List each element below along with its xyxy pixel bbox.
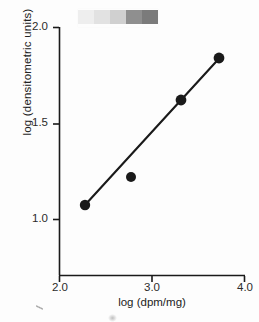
regression-line [85,58,220,205]
x-tick-label-1: 3.0 [135,281,169,293]
x-axis-title: log (dpm/mg) [59,296,245,308]
x-tick-label-2: 4.0 [228,281,259,293]
figure-panel: 2.0 1.5 1.0 2.0 3.0 4.0 log (dpm/mg) log… [0,0,259,322]
data-series [80,53,225,211]
scan-artifact-mark [36,302,43,313]
y-tick-label-0: 1.0 [16,212,48,224]
data-point [176,95,187,106]
y-axis-ticks [53,28,59,220]
y-axis-title-wrapper: log (densitometric units) [21,0,41,172]
data-point [80,200,90,210]
y-axis-title: log (densitometric units) [21,0,33,172]
scan-artifact-smudge [108,314,117,322]
data-point [214,53,225,64]
axes [53,27,245,282]
data-point [126,172,136,182]
x-tick-label-0: 2.0 [43,281,77,293]
